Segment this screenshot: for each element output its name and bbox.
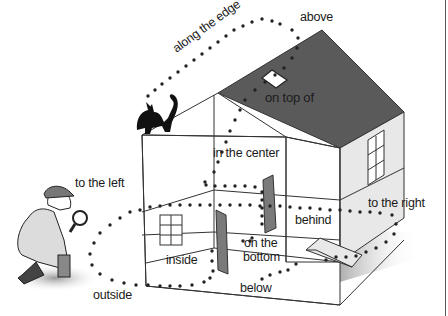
label-to-the-right: to the right — [368, 196, 425, 210]
detective-figure — [10, 186, 100, 292]
frame-border — [445, 0, 446, 316]
label-on-the-line1: on the — [244, 236, 278, 250]
label-on-top-of: on top of — [265, 90, 314, 105]
lower-door — [216, 210, 228, 274]
label-behind: behind — [295, 213, 331, 227]
side-window — [368, 130, 384, 185]
label-in-the-center: in the center — [213, 146, 279, 160]
positional-words-diagram: above along the edge on top of in the ce… — [0, 0, 448, 316]
label-above: above — [300, 10, 333, 24]
upper-door — [263, 175, 276, 233]
label-below: below — [240, 281, 272, 295]
label-bottom-line2: bottom — [243, 250, 280, 264]
label-outside: outside — [93, 288, 132, 302]
label-to-the-left: to the left — [75, 176, 124, 190]
inner-window — [160, 215, 182, 245]
label-inside: inside — [166, 253, 197, 267]
